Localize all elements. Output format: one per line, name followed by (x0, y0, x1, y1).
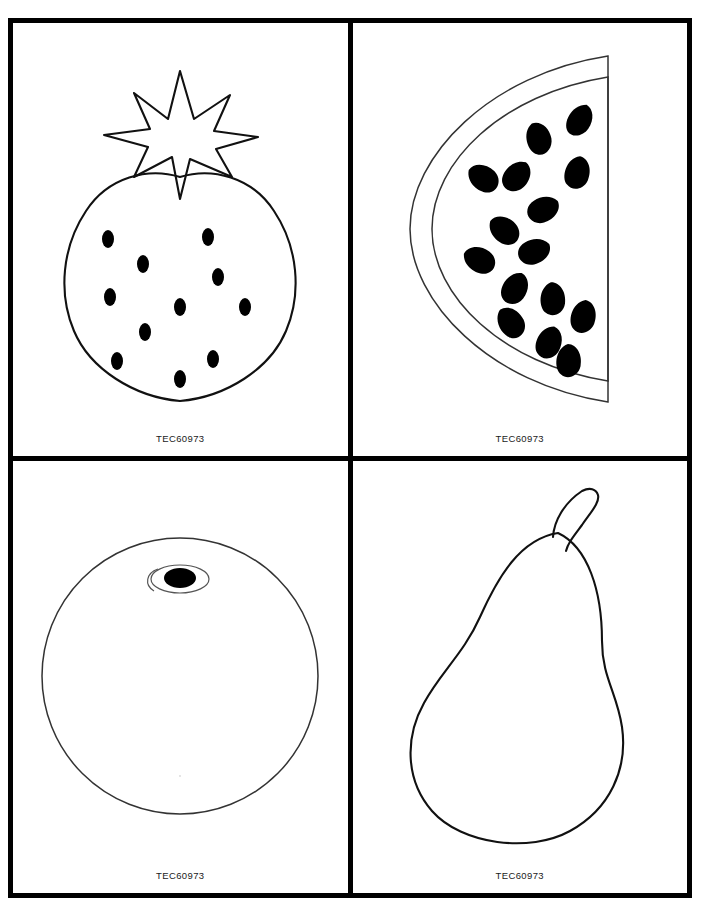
pear-artwork (353, 461, 688, 871)
strawberry-outline-icon (30, 49, 330, 409)
strawberry-artwork (13, 23, 348, 433)
panel-label-orange: TEC60973 (13, 870, 348, 893)
panel-strawberry[interactable]: TEC60973 (13, 23, 348, 456)
watermelon-artwork (353, 23, 688, 433)
orange-outline-icon (30, 491, 330, 841)
panel-label-pear: TEC60973 (353, 870, 688, 893)
panel-watermelon[interactable]: TEC60973 (353, 23, 688, 456)
panel-orange[interactable]: TEC60973 (13, 461, 348, 894)
fruit-template-grid: TEC60973 (8, 18, 692, 898)
panel-label-watermelon: TEC60973 (353, 433, 688, 456)
panel-label-strawberry: TEC60973 (13, 433, 348, 456)
pear-outline-icon (370, 481, 670, 851)
orange-artwork (13, 461, 348, 871)
watermelon-slice-outline-icon (370, 44, 670, 414)
panel-pear[interactable]: TEC60973 (353, 461, 688, 894)
